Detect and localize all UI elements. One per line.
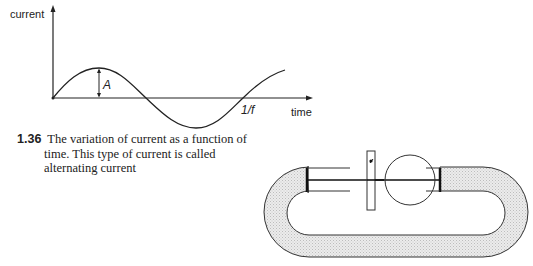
ac-generator-diagram — [264, 151, 528, 257]
current-time-chart: current time A 1/f — [10, 5, 313, 128]
period-label: 1/f — [241, 103, 256, 117]
x-axis-label: time — [291, 106, 312, 118]
x-axis-arrow-icon — [306, 96, 313, 101]
amplitude-label: A — [102, 78, 111, 92]
caption-line-3: alternating current — [17, 161, 267, 176]
y-axis-label: current — [10, 8, 44, 20]
y-axis-arrow-icon — [51, 5, 56, 12]
figure-number: 1.36 — [17, 132, 41, 146]
amplitude-arrow-down-icon — [97, 93, 101, 98]
figure-caption: 1.36The variation of current as a functi… — [17, 132, 267, 176]
caption-line-1: The variation of current as a function o… — [47, 132, 247, 146]
caption-line-2: time. This type of current is called — [17, 147, 267, 162]
amplitude-arrow-up-icon — [97, 69, 101, 74]
